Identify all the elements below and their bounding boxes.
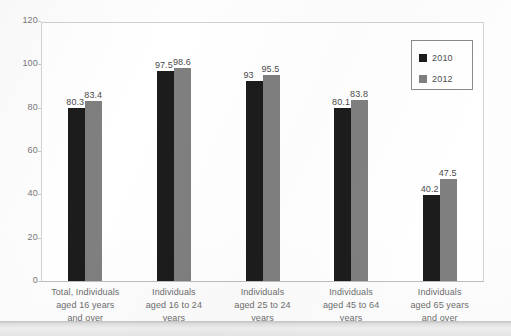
- y-axis-tick-mark: [38, 151, 41, 152]
- legend-swatch-icon: [419, 54, 427, 62]
- chart-screenshot: 020406080100120 80.383.497.598.69395.580…: [0, 0, 511, 336]
- y-axis-tick-mark: [38, 281, 41, 282]
- bar-2010: [423, 195, 440, 282]
- page-edge-line: [0, 321, 511, 322]
- category-label-line: Total, Individuals: [41, 286, 130, 299]
- bar-group: 80.383.4: [68, 22, 102, 282]
- y-axis-tick-label: 100: [8, 59, 38, 68]
- bar-value-label: 93: [244, 71, 254, 80]
- bar-value-label: 98.6: [173, 58, 191, 67]
- bar-value-label: 80.3: [66, 98, 84, 107]
- legend-swatch-icon: [419, 75, 427, 83]
- legend-entry-2010: 2010: [419, 52, 453, 64]
- y-axis-tick-label: 40: [8, 189, 38, 198]
- category-label: Individualsaged 45 to 64years: [307, 286, 396, 325]
- y-axis: 020406080100120: [2, 0, 38, 336]
- legend-label: 2012: [432, 75, 453, 84]
- bar-2012: [174, 68, 191, 282]
- y-axis-tick-label: 0: [8, 276, 38, 285]
- category-label-line: aged 16 years: [41, 299, 130, 312]
- y-axis-tick-mark: [38, 238, 41, 239]
- y-axis-tick-mark: [38, 108, 41, 109]
- bar-group: 97.598.6: [157, 22, 191, 282]
- bar-2012: [440, 179, 457, 282]
- bar-2010: [246, 81, 263, 283]
- category-label-line: aged 16 to 24: [130, 299, 219, 312]
- category-label-line: Individuals: [130, 286, 219, 299]
- bar-group: 9395.5: [246, 22, 280, 282]
- chart-legend: 20102012: [411, 40, 473, 90]
- category-label: Individualsaged 25 to 24years: [218, 286, 307, 325]
- y-axis-tick-mark: [38, 64, 41, 65]
- bar-value-label: 40.2: [421, 185, 439, 194]
- category-label: Total, Individualsaged 16 yearsand over: [41, 286, 130, 325]
- category-label: Individualsaged 16 to 24years: [130, 286, 219, 325]
- bar-2010: [334, 108, 351, 282]
- y-axis-tick-label: 80: [8, 103, 38, 112]
- bar-2012: [263, 75, 280, 282]
- category-label-line: Individuals: [218, 286, 307, 299]
- bar-value-label: 47.5: [439, 169, 457, 178]
- category-label-line: Individuals: [395, 286, 484, 299]
- bar-2012: [351, 100, 368, 282]
- bar-value-label: 83.4: [84, 91, 102, 100]
- legend-label: 2010: [432, 54, 453, 63]
- bar-2010: [68, 108, 85, 282]
- bar-2012: [85, 101, 102, 282]
- y-axis-tick-mark: [38, 21, 41, 22]
- category-label-line: aged 45 to 64: [307, 299, 396, 312]
- bar-2010: [157, 71, 174, 282]
- y-axis-tick-mark: [38, 194, 41, 195]
- y-axis-tick-label: 60: [8, 146, 38, 155]
- bar-value-label: 95.5: [262, 65, 280, 74]
- category-label-line: aged 25 to 24: [218, 299, 307, 312]
- bar-group: 80.183.8: [334, 22, 368, 282]
- x-axis-line: [41, 281, 484, 282]
- legend-entry-2012: 2012: [419, 73, 453, 85]
- y-axis-tick-label: 120: [8, 16, 38, 25]
- y-axis-tick-label: 20: [8, 233, 38, 242]
- bar-value-label: 80.1: [332, 98, 350, 107]
- category-label-line: Individuals: [307, 286, 396, 299]
- page-bottom-edge: [0, 322, 511, 336]
- category-label: Individualsaged 65 yearsand over: [395, 286, 484, 325]
- category-label-line: aged 65 years: [395, 299, 484, 312]
- bar-value-label: 97.5: [155, 61, 173, 70]
- bar-value-label: 83.8: [350, 90, 368, 99]
